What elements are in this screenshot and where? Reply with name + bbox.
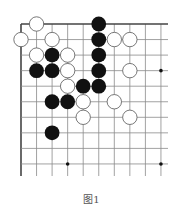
white-stone	[107, 32, 121, 46]
black-stone	[91, 79, 106, 94]
white-stone	[76, 95, 90, 109]
black-stone	[29, 63, 44, 78]
star-point	[159, 162, 163, 166]
figure-caption: 图1	[0, 191, 183, 206]
white-stone	[76, 110, 90, 124]
white-stone	[45, 32, 59, 46]
black-stone	[91, 17, 106, 32]
white-stone	[60, 48, 74, 62]
star-point	[66, 162, 70, 166]
white-stone	[29, 48, 43, 62]
black-stone	[45, 94, 60, 109]
black-stone	[45, 48, 60, 63]
black-stone	[91, 63, 106, 78]
white-stone	[60, 79, 74, 93]
white-stone	[123, 110, 137, 124]
white-stone	[123, 63, 137, 77]
star-point	[159, 69, 163, 73]
black-stone	[45, 125, 60, 140]
black-stone	[91, 48, 106, 63]
black-stone	[45, 63, 60, 78]
white-stone	[107, 95, 121, 109]
white-stone	[29, 17, 43, 31]
black-stone	[60, 94, 75, 109]
white-stone	[60, 63, 74, 77]
go-board-diagram	[0, 0, 183, 190]
white-stone	[123, 32, 137, 46]
black-stone	[76, 79, 91, 94]
black-stone	[91, 32, 106, 47]
white-stone	[14, 32, 28, 46]
